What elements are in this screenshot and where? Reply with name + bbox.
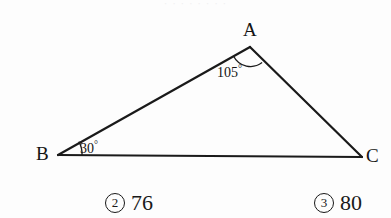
- angle-label-b: 30°: [80, 138, 98, 156]
- side-bc: [58, 155, 362, 157]
- vertex-label-a: A: [243, 20, 257, 39]
- degree-symbol-a: °: [238, 63, 242, 74]
- answer-choice-2[interactable]: 2 76: [105, 191, 153, 215]
- angle-b-value: 30: [80, 141, 94, 156]
- choice-marker-3: 3: [314, 193, 334, 213]
- degree-symbol-b: °: [94, 139, 98, 150]
- triangle-figure: [0, 0, 391, 218]
- angle-label-a: 105°: [217, 62, 242, 80]
- choice-text-3: 80: [340, 191, 362, 215]
- answer-choice-3[interactable]: 3 80: [314, 191, 362, 215]
- angle-a-value: 105: [217, 65, 238, 80]
- choice-text-2: 76: [131, 191, 153, 215]
- choice-marker-2: 2: [105, 193, 125, 213]
- vertex-label-b: B: [36, 144, 49, 163]
- vertex-label-c: C: [366, 146, 379, 165]
- figure-page: · · · · · · · · A B C 105° 30° 2 76 3 80: [0, 0, 391, 218]
- side-ac: [250, 47, 362, 157]
